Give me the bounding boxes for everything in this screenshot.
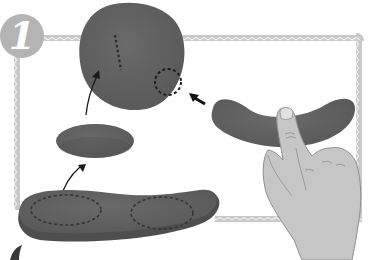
- long-clay-sole: [18, 190, 219, 242]
- large-clay-blob: [79, 3, 184, 115]
- step-number-badge: [0, 14, 44, 58]
- partial-next-step-shape: [10, 245, 22, 260]
- fingernail: [280, 108, 293, 120]
- small-clay-oval: [56, 124, 134, 200]
- pointer-arrow-icon: [189, 93, 205, 104]
- step-illustration: [0, 0, 374, 260]
